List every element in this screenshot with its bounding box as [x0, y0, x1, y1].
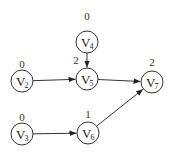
edge-v3-v6: [33, 133, 77, 134]
node-v3: V30: [11, 111, 33, 145]
node-v2: V20: [11, 58, 33, 92]
node-subscript: 7: [155, 82, 159, 91]
node-subscript: 2: [25, 81, 29, 90]
node-v7: V72: [141, 56, 163, 93]
edge-v2-v5: [33, 79, 76, 80]
nodes: V20V30V40V52V61V72: [11, 10, 163, 145]
node-v6: V61: [77, 108, 99, 144]
node-subscript: 6: [91, 133, 95, 142]
node-subscript: 4: [90, 42, 94, 51]
edge-v5-v7: [98, 80, 141, 82]
edge-v6-v7: [97, 89, 143, 126]
node-value: 2: [73, 54, 79, 66]
node-value: 0: [84, 10, 90, 22]
node-subscript: 5: [90, 79, 94, 88]
node-value: 2: [149, 56, 155, 68]
node-v4: V40: [76, 10, 98, 53]
node-value: 1: [85, 108, 91, 120]
node-subscript: 3: [25, 134, 29, 143]
node-value: 0: [19, 111, 25, 123]
node-v5: V52: [73, 54, 98, 90]
directed-graph: V20V30V40V52V61V72: [0, 0, 173, 156]
node-value: 0: [19, 58, 25, 70]
